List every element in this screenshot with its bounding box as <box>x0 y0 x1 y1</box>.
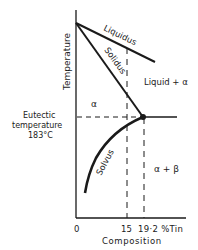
eutectic-label-line2: temperature <box>12 121 62 130</box>
solvus-label: Solvus <box>94 147 116 177</box>
x-axis-label: Composition <box>102 236 162 246</box>
solidus-label: Solidus <box>102 45 128 76</box>
region-alpha-beta: α + β <box>154 164 179 174</box>
eutectic-label-line3: 183°C <box>28 131 53 140</box>
x-tick-19-2: 19·2 %Tin <box>138 224 183 234</box>
eutectic-point <box>140 114 146 120</box>
eutectic-label-line1: Eutectic <box>23 111 55 120</box>
region-liquid-alpha: Liquid + α <box>144 77 188 87</box>
region-alpha: α <box>91 99 97 109</box>
x-tick-0: 0 <box>74 224 79 234</box>
y-axis-label: Temperature <box>62 33 72 91</box>
phase-diagram: Temperature Composition 0 15 19·2 %Tin L… <box>0 0 198 250</box>
x-tick-15: 15 <box>121 224 132 234</box>
